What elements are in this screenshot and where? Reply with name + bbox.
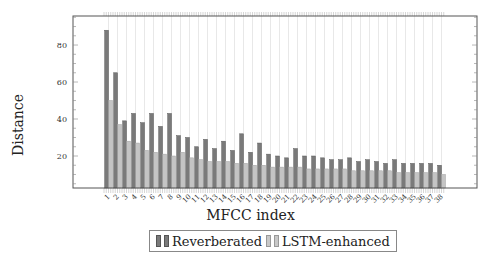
bar-lstm-enhanced <box>397 173 401 188</box>
bar-lstm-enhanced <box>316 169 320 188</box>
bar-reverberated <box>402 163 406 188</box>
legend-label-lstm-enhanced: LSTM-enhanced <box>282 234 390 249</box>
legend-item-reverberated: Reverberated <box>156 234 262 249</box>
legend-label-reverberated: Reverberated <box>172 234 262 249</box>
x-tick-label: 5 <box>139 193 148 202</box>
bar-lstm-enhanced <box>298 167 302 188</box>
bar-reverberated <box>285 158 289 188</box>
bar-lstm-enhanced <box>262 165 266 188</box>
bar-reverberated <box>195 147 199 188</box>
bar-lstm-enhanced <box>181 152 185 188</box>
bar-lstm-enhanced <box>280 167 284 188</box>
bar-lstm-enhanced <box>217 162 221 188</box>
bar-lstm-enhanced <box>352 171 356 188</box>
bar-reverberated <box>339 160 343 188</box>
bar-lstm-enhanced <box>271 167 275 188</box>
bar-lstm-enhanced <box>163 154 167 188</box>
bar-lstm-enhanced <box>307 169 311 188</box>
bar-reverberated <box>240 134 244 188</box>
bar-reverberated <box>168 113 172 188</box>
bar-lstm-enhanced <box>199 160 203 188</box>
legend: Reverberated LSTM-enhanced <box>149 230 397 252</box>
bar-lstm-enhanced <box>415 173 419 188</box>
bar-reverberated <box>222 141 226 188</box>
y-tick-label: 20 <box>57 152 67 161</box>
bar-lstm-enhanced <box>334 169 338 188</box>
bar-reverberated <box>213 149 217 188</box>
bar-lstm-enhanced <box>136 143 140 188</box>
bar-reverberated <box>393 160 397 188</box>
x-tick-label: 3 <box>121 193 130 202</box>
bar-lstm-enhanced <box>127 141 131 188</box>
bar-lstm-enhanced <box>118 125 122 188</box>
bar-lstm-enhanced <box>361 171 365 188</box>
x-tick-label: 6 <box>148 192 157 201</box>
bar-reverberated <box>357 162 361 188</box>
bar-reverberated <box>159 126 163 188</box>
x-tick-label: 7 <box>157 193 166 202</box>
bar-lstm-enhanced <box>442 174 446 188</box>
bar-reverberated <box>186 138 190 188</box>
bar-lstm-enhanced <box>289 167 293 188</box>
bar-reverberated <box>177 136 181 188</box>
y-axis-title: Distance <box>10 94 26 156</box>
bar-reverberated <box>330 160 334 188</box>
bar-reverberated <box>321 158 325 188</box>
bar-lstm-enhanced <box>406 173 410 188</box>
legend-swatch-lstm <box>266 235 271 247</box>
bar-reverberated <box>384 163 388 188</box>
x-tick-label: 1 <box>103 193 112 202</box>
bar-lstm-enhanced <box>343 169 347 188</box>
bar-reverberated <box>375 162 379 188</box>
x-tick-label: 8 <box>166 193 175 202</box>
bar-lstm-enhanced <box>145 150 149 188</box>
bar-reverberated <box>204 139 208 188</box>
bar-lstm-enhanced <box>325 169 329 188</box>
bar-reverberated <box>150 113 154 188</box>
bar-lstm-enhanced <box>424 173 428 188</box>
bar-reverberated <box>132 113 136 188</box>
bar-lstm-enhanced <box>109 101 113 188</box>
bar-lstm-enhanced <box>208 162 212 188</box>
bar-reverberated <box>294 149 298 188</box>
bar-lstm-enhanced <box>370 171 374 188</box>
x-tick-label: 38 <box>433 193 445 205</box>
bar-reverberated <box>123 121 127 188</box>
bar-lstm-enhanced <box>190 158 194 188</box>
bar-lstm-enhanced <box>379 171 383 188</box>
bar-lstm-enhanced <box>235 163 239 188</box>
bar-reverberated <box>114 73 118 188</box>
bar-reverberated <box>141 123 145 188</box>
bar-lstm-enhanced <box>154 152 158 188</box>
y-tick-label: 60 <box>57 78 67 87</box>
x-tick-label: 4 <box>130 192 139 201</box>
bar-reverberated <box>249 152 253 188</box>
legend-item-lstm-enhanced: LSTM-enhanced <box>266 234 390 249</box>
bar-lstm-enhanced <box>226 162 230 188</box>
legend-swatch-reverberated <box>156 235 161 247</box>
y-tick-label: 40 <box>57 115 67 124</box>
bar-lstm-enhanced <box>244 163 248 188</box>
bar-lstm-enhanced <box>172 156 176 188</box>
bar-reverberated <box>420 163 424 188</box>
bar-reverberated <box>267 154 271 188</box>
bar-reverberated <box>105 30 109 188</box>
legend-swatch-reverberated-2 <box>164 235 169 247</box>
bar-reverberated <box>258 143 262 188</box>
legend-swatch-lstm-2 <box>274 235 279 247</box>
bar-reverberated <box>366 160 370 188</box>
bar-reverberated <box>429 163 433 188</box>
bar-chart: 2040608012345678910111213141516171819202… <box>0 0 501 266</box>
x-axis-title: MFCC index <box>0 207 501 223</box>
bar-lstm-enhanced <box>388 171 392 188</box>
y-tick-label: 80 <box>57 41 67 50</box>
bar-reverberated <box>276 156 280 188</box>
bar-lstm-enhanced <box>253 165 257 188</box>
bar-reverberated <box>411 163 415 188</box>
bar-lstm-enhanced <box>433 173 437 188</box>
bar-reverberated <box>438 165 442 188</box>
bar-reverberated <box>348 158 352 188</box>
bar-reverberated <box>303 156 307 188</box>
x-tick-label: 2 <box>112 193 121 202</box>
bar-reverberated <box>312 156 316 188</box>
